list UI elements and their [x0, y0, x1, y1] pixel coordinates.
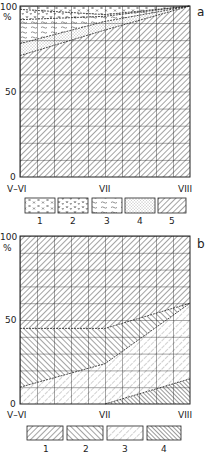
panel-label-b: b: [197, 237, 205, 251]
legend-swatch-1: [25, 198, 55, 213]
y-unit-label: %: [3, 12, 12, 22]
legend-label-1: 1: [37, 216, 43, 226]
legend-b: 1 2 3 4: [27, 426, 181, 453]
x-tick-vii: VII: [99, 410, 110, 420]
x-tick-vii: VII: [99, 184, 110, 194]
x-tick-viii: VIII: [178, 184, 192, 194]
panel-b: 100 % 50 0 V–VI VII VIII b 1 2 3 4: [0, 232, 205, 453]
panel-a: 100 % 50 0 V–VI VII VIII a 1 2 3 4 5: [0, 2, 204, 226]
legend-swatch-3: [92, 198, 122, 213]
y-unit-label: %: [3, 243, 12, 253]
figure: 100 % 50 0 V–VI VII VIII a 1 2 3 4 5: [0, 0, 208, 453]
legend-a: 1 2 3 4 5: [25, 198, 186, 226]
legend-label-4: 4: [137, 216, 143, 226]
legend-label-2: 2: [70, 216, 76, 226]
x-tick-v-vi: V–VI: [7, 410, 26, 420]
legend-swatch-1: [27, 426, 63, 440]
legend-swatch-3: [107, 426, 143, 440]
legend-label-5: 5: [169, 216, 175, 226]
y-tick-50: 50: [5, 87, 17, 97]
y-tick-100: 100: [0, 232, 17, 242]
y-tick-0: 0: [10, 172, 16, 182]
panel-a-plot-area: [20, 6, 190, 177]
legend-label-3: 3: [122, 444, 128, 453]
legend-swatch-4: [125, 198, 155, 213]
panel-b-plot-area: [20, 236, 190, 404]
y-tick-50: 50: [5, 315, 17, 325]
legend-swatch-5: [158, 198, 186, 213]
legend-label-2: 2: [83, 444, 89, 453]
y-tick-100: 100: [0, 2, 17, 12]
legend-label-4: 4: [161, 444, 167, 453]
legend-swatch-2: [58, 198, 88, 213]
legend-label-3: 3: [104, 216, 110, 226]
x-tick-v-vi: V–VI: [7, 184, 26, 194]
legend-label-1: 1: [43, 444, 49, 453]
legend-swatch-2: [67, 426, 103, 440]
x-tick-viii: VIII: [178, 410, 192, 420]
y-tick-0: 0: [10, 399, 16, 409]
legend-swatch-4: [147, 426, 181, 440]
panel-label-a: a: [197, 5, 204, 19]
